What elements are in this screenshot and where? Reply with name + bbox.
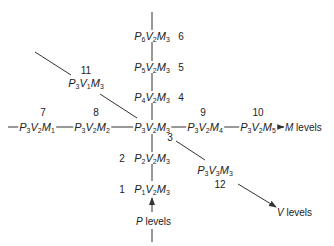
node-8: P3V2M2 bbox=[73, 121, 111, 133]
node-5: P5V2M3 bbox=[133, 61, 171, 73]
node-number-6: 6 bbox=[178, 31, 184, 42]
node-9: P3V2M4 bbox=[186, 121, 224, 133]
node-number-9: 9 bbox=[200, 107, 206, 118]
node-11: P3V1M3 bbox=[67, 77, 105, 89]
node-number-10: 10 bbox=[252, 107, 263, 118]
v-levels-label: V levels bbox=[277, 207, 312, 218]
node-10: P3V2M5 bbox=[239, 121, 277, 133]
node-number-4: 4 bbox=[178, 92, 184, 103]
node-number-5: 5 bbox=[178, 62, 184, 73]
node-number-8: 8 bbox=[93, 107, 99, 118]
node-2: P2V2M3 bbox=[133, 152, 171, 164]
node-7: P3V2M1 bbox=[18, 121, 56, 133]
node-number-12: 12 bbox=[214, 179, 225, 190]
node-center-p3v2m3: P3V2M3 bbox=[133, 121, 171, 133]
node-6: P6V2M3 bbox=[133, 30, 171, 42]
node-1: P1V2M3 bbox=[133, 183, 171, 195]
node-4: P4V2M3 bbox=[133, 91, 171, 103]
node-number-2: 2 bbox=[119, 153, 125, 164]
node-number-7: 7 bbox=[40, 107, 46, 118]
node-3: P3V3M3 bbox=[196, 164, 234, 176]
m-levels-label: M levels bbox=[285, 122, 322, 133]
p-levels-label: P levels bbox=[136, 216, 171, 227]
node-number-3: 3 bbox=[167, 132, 173, 143]
node-number-11: 11 bbox=[81, 65, 91, 76]
node-number-1: 1 bbox=[119, 184, 125, 195]
